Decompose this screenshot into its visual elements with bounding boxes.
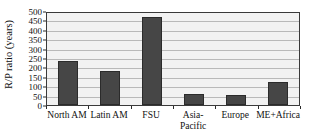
bar-slot	[215, 13, 257, 105]
bar	[184, 94, 204, 105]
x-axis-category-label-line: Latin AM	[88, 110, 130, 121]
bar-slot	[173, 13, 215, 105]
bars-layer	[47, 13, 299, 105]
x-axis-category-label: FSU	[130, 110, 172, 140]
y-axis-tick-label: 400	[29, 26, 43, 35]
y-axis-tick-label: 300	[29, 45, 43, 54]
x-axis-category-label: North AM	[46, 110, 88, 140]
x-axis-category-label-line: Asia-	[172, 110, 214, 121]
bar-slot	[131, 13, 173, 105]
x-axis-tickmark	[258, 106, 259, 109]
plot-area	[46, 12, 300, 106]
x-axis-category-label: ME+Africa	[256, 110, 300, 140]
y-axis-tick-label: 100	[29, 83, 43, 92]
y-axis-tick-label: 0	[38, 102, 43, 111]
bar	[226, 95, 246, 105]
x-axis-category-label: Latin AM	[88, 110, 130, 140]
x-axis-category-label: Europe	[214, 110, 256, 140]
x-axis-category-labels: North AMLatin AMFSUAsia-PacificEuropeME+…	[46, 110, 300, 140]
x-axis-category-label-line: Europe	[214, 110, 256, 121]
bar	[142, 17, 162, 105]
bar-slot	[89, 13, 131, 105]
y-axis-tick-labels: 050100150200250300350400450500	[14, 12, 44, 106]
bar-chart-figure: R/P ratio (years) 0501001502002503003504…	[0, 0, 318, 140]
y-axis-tick-label: 200	[29, 64, 43, 73]
bar-slot	[257, 13, 299, 105]
x-axis-category-label-line: North AM	[46, 110, 88, 121]
x-axis-tickmark	[46, 106, 47, 109]
x-axis-category-label: Asia-Pacific	[172, 110, 214, 140]
x-axis-tickmark	[215, 106, 216, 109]
x-axis-category-label-line: FSU	[130, 110, 172, 121]
y-axis-tick-label: 350	[29, 36, 43, 45]
bar	[100, 71, 120, 105]
y-axis-tick-label: 250	[29, 55, 43, 64]
x-axis-tickmark	[300, 106, 301, 109]
x-axis-tickmark	[131, 106, 132, 109]
bar	[268, 82, 288, 106]
bar	[58, 61, 78, 105]
x-axis-tickmark	[173, 106, 174, 109]
y-axis-tick-label: 50	[33, 92, 42, 101]
bar-slot	[47, 13, 89, 105]
x-axis-category-label-line: Pacific	[172, 121, 214, 132]
x-axis-category-label-line: ME+Africa	[256, 110, 300, 121]
y-axis-tick-label: 500	[29, 8, 43, 17]
y-axis-title-text: R/P ratio (years)	[3, 19, 14, 88]
x-axis-tickmark	[88, 106, 89, 109]
y-axis-tick-label: 150	[29, 73, 43, 82]
y-axis-tick-label: 450	[29, 17, 43, 26]
